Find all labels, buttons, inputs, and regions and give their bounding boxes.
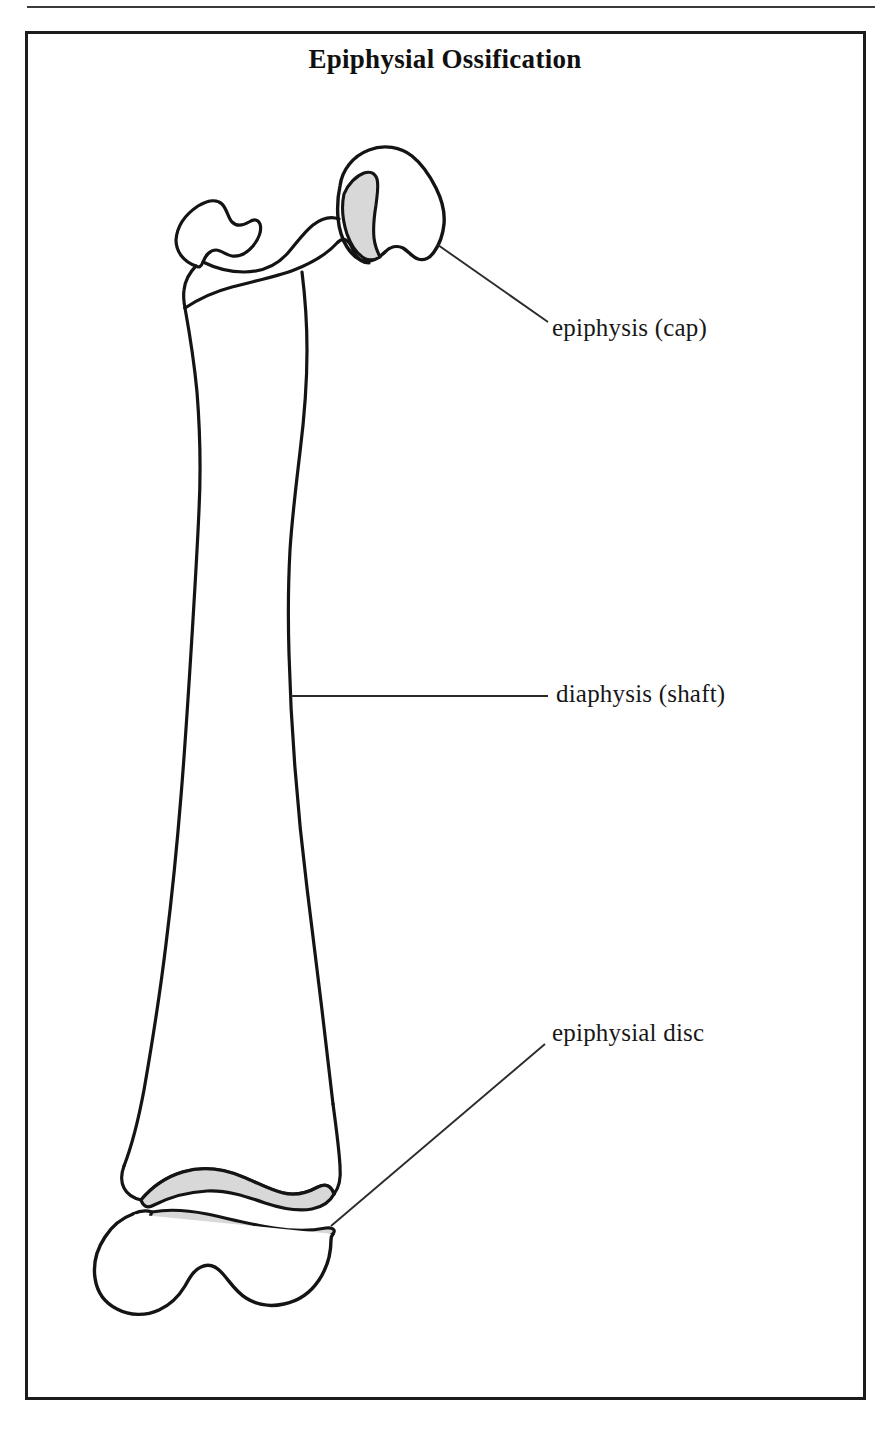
clipped-caption-text xyxy=(30,1418,650,1435)
shaft-left-cortex xyxy=(124,308,200,1166)
distal-epiphysial-disc-upper xyxy=(141,1169,334,1210)
distal-metaphysis-right-flare xyxy=(333,1104,340,1194)
page-canvas: Epiphysial Ossification xyxy=(0,0,890,1435)
label-epiphysis-cap: epiphysis (cap) xyxy=(552,314,707,342)
leader-line-epiphysial-disc xyxy=(331,1044,545,1226)
femur-diagram xyxy=(0,0,890,1435)
shaft-right-cortex xyxy=(288,272,333,1104)
leader-line-epiphysis-cap xyxy=(438,245,548,322)
label-epiphysial-disc: epiphysial disc xyxy=(552,1019,704,1047)
distal-metaphysis-left-flare xyxy=(122,1166,141,1200)
label-diaphysis-shaft: diaphysis (shaft) xyxy=(556,680,725,708)
greater-trochanter-outline xyxy=(176,201,261,267)
